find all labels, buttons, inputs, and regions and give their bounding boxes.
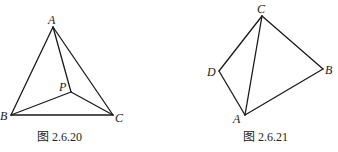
figure-caption: 图 2.6.21 xyxy=(243,130,288,144)
geometry-diagrams: A B C P 图 2.6.20 C D A B 图 2.6.21 xyxy=(0,0,338,152)
vertex-label-C: C xyxy=(257,2,266,16)
figure-caption: 图 2.6.20 xyxy=(37,130,82,144)
vertex-label-B: B xyxy=(0,109,8,123)
segment-DA xyxy=(219,71,245,115)
vertex-label-A: A xyxy=(47,13,56,27)
figure-2-6-20: A B C P 图 2.6.20 xyxy=(0,13,124,144)
figure-2-6-21: C D A B 图 2.6.21 xyxy=(206,2,333,144)
segment-AB xyxy=(245,69,323,115)
vertex-label-C: C xyxy=(115,111,124,125)
vertex-label-D: D xyxy=(206,65,216,79)
segment-CD xyxy=(219,16,262,71)
segment-AC xyxy=(53,27,113,115)
vertex-label-B: B xyxy=(325,63,333,77)
segment-CP xyxy=(71,92,113,115)
vertex-label-P: P xyxy=(58,80,67,94)
segment-CA xyxy=(245,16,262,115)
segment-BC xyxy=(262,16,323,69)
vertex-label-A: A xyxy=(232,112,241,126)
